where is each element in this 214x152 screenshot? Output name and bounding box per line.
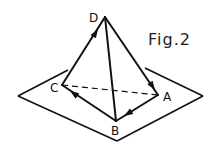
edge-CD: [62, 17, 105, 85]
edge-AB: [116, 95, 158, 121]
plane-edge-left-top: [18, 70, 68, 96]
edge-DB: [105, 17, 116, 121]
vertex-label-B: B: [111, 124, 119, 138]
vertex-label-C: C: [50, 81, 58, 95]
tetrahedron-edges: [62, 17, 158, 121]
vertex-label-A: A: [163, 90, 172, 104]
vertex-label-D: D: [89, 11, 98, 25]
figure-caption: Fig.2: [148, 30, 191, 49]
plane-edge-right-bottom: [117, 96, 203, 141]
edge-BC: [62, 85, 116, 121]
plane-edge-right-top: [145, 68, 203, 96]
plane-edge-left-bottom: [18, 96, 117, 141]
tetrahedron-diagram: D C A B Fig.2: [0, 0, 214, 152]
